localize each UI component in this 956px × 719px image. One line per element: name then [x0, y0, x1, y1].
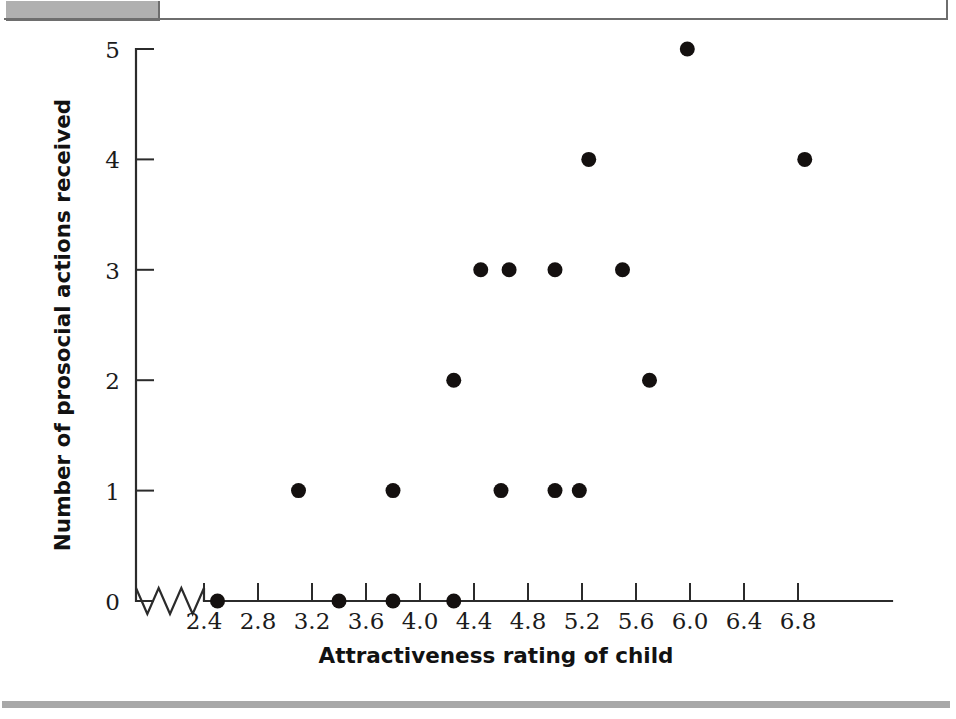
data-point	[446, 373, 461, 388]
data-point	[386, 594, 401, 609]
ticks-group	[136, 49, 798, 601]
data-point	[291, 483, 306, 498]
data-point	[548, 483, 563, 498]
data-point	[548, 262, 563, 277]
x-axis-tick-label: 3.6	[348, 608, 385, 634]
x-axis-tick-label: 4.0	[402, 608, 439, 634]
x-axis-tick-label: 6.0	[672, 608, 709, 634]
data-point	[494, 483, 509, 498]
data-point	[642, 373, 657, 388]
data-point	[446, 594, 461, 609]
y-axis-tick-label: 4	[105, 147, 120, 173]
y-axis-tick-label: 2	[105, 368, 120, 394]
data-point	[680, 42, 695, 57]
data-point	[332, 594, 347, 609]
axes-group	[136, 49, 892, 614]
x-axis-tick-label: 6.8	[780, 608, 817, 634]
x-axis-tick-label: 4.4	[456, 608, 493, 634]
x-axis-tick-label: 6.4	[726, 608, 763, 634]
y-axis-tick-label: 1	[105, 479, 120, 505]
x-axis-tick-label: 5.2	[564, 608, 601, 634]
data-point	[210, 594, 225, 609]
y-axis-tick-label: 5	[105, 37, 120, 63]
y-axis-tick-label: 3	[105, 258, 120, 284]
data-point	[572, 483, 587, 498]
data-point	[386, 483, 401, 498]
scatter-plot: 0123452.42.83.23.64.04.44.85.25.66.06.46…	[0, 0, 956, 719]
x-axis-tick-label: 3.2	[294, 608, 331, 634]
data-points-group	[210, 42, 812, 609]
tick-labels-group: 0123452.42.83.23.64.04.44.85.25.66.06.46…	[105, 37, 816, 634]
figure-page: 0123452.42.83.23.64.04.44.85.25.66.06.46…	[0, 0, 956, 719]
y-axis-title: Number of prosocial actions received	[50, 99, 75, 551]
x-axis-tick-label: 2.8	[240, 608, 277, 634]
x-axis-title: Attractiveness rating of child	[319, 643, 674, 668]
bottom-rule	[2, 701, 950, 708]
x-axis-tick-label: 5.6	[618, 608, 655, 634]
x-axis-tick-label: 2.4	[186, 608, 223, 634]
data-point	[797, 152, 812, 167]
x-axis-tick-label: 4.8	[510, 608, 547, 634]
data-point	[615, 262, 630, 277]
axis-titles-group: Attractiveness rating of childNumber of …	[50, 99, 674, 668]
y-axis-tick-label: 0	[105, 589, 120, 615]
data-point	[502, 262, 517, 277]
data-point	[581, 152, 596, 167]
data-point	[473, 262, 488, 277]
